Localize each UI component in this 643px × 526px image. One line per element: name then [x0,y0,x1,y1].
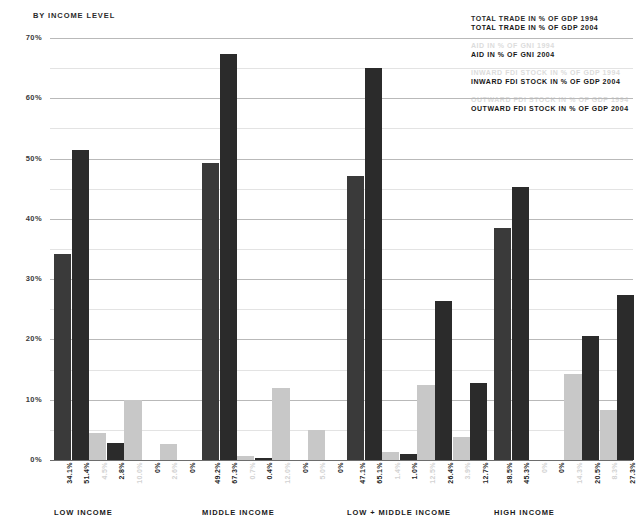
bar[interactable] [494,228,511,460]
bar[interactable] [600,410,617,460]
bar[interactable] [400,454,417,460]
bar[interactable] [255,458,272,460]
gridline-minor-55 [50,128,633,129]
y-axis-tick-60%: 60% [0,93,42,102]
bar-value-label: 12.5% [429,462,436,484]
bar-value-label: 1.4% [394,462,401,480]
chart-plot-area: 0%10%20%30%40%50%60%70% [50,38,633,460]
bar[interactable] [365,68,382,460]
bar[interactable] [160,444,177,460]
bar[interactable] [54,254,71,460]
bar-value-label: 26.4% [447,462,454,484]
y-axis-tick-50%: 50% [0,154,42,163]
bar-value-label: 0.7% [249,462,256,480]
gridline-60 [50,98,633,99]
bar-value-label: 0% [541,462,548,473]
y-axis-tick-0%: 0% [0,455,42,464]
bar[interactable] [124,400,141,460]
gridline-40 [50,219,633,220]
bar-value-label: 12.7% [482,462,489,484]
bar-value-label: 51.4% [83,462,90,484]
bar[interactable] [564,374,581,460]
page-title: BY INCOME LEVEL [33,11,115,20]
bar[interactable] [470,383,487,460]
bar[interactable] [435,301,452,460]
gridline-minor-35 [50,249,633,250]
gridline-0 [50,460,633,461]
bar[interactable] [272,388,289,460]
legend-item-total-trade-1994[interactable]: TOTAL TRADE IN % OF GDP 1994 [471,14,643,23]
bar-value-label: 1.0% [411,462,418,480]
bar-value-label: 14.3% [576,462,583,484]
y-axis-tick-40%: 40% [0,214,42,223]
bar[interactable] [72,150,89,460]
bar-value-label: 4.5% [101,462,108,480]
bar[interactable] [202,163,219,460]
bar-value-label: 38.5% [506,462,513,484]
bar[interactable] [582,336,599,460]
bar[interactable] [417,385,434,460]
bar-value-label: 2.8% [118,462,125,480]
category-label-high-income: HIGH INCOME [494,508,555,517]
bar-value-label: 0% [337,462,344,473]
bar-value-label: 65.1% [376,462,383,484]
bar-value-label: 2.6% [171,462,178,480]
gridline-minor-25 [50,309,633,310]
bar-value-label: 0% [154,462,161,473]
bar-value-label: 67.3% [231,462,238,484]
bar[interactable] [107,443,124,460]
bar-value-label: 0.4% [266,462,273,480]
bar[interactable] [512,187,529,460]
bar[interactable] [453,437,470,461]
bar-value-label: 34.1% [66,462,73,484]
bar-value-label: 10.0% [136,462,143,484]
y-axis-tick-30%: 30% [0,274,42,283]
bar[interactable] [382,452,399,460]
bar[interactable] [347,176,364,460]
bar-value-label: 0% [558,462,565,473]
bar-value-label: 49.2% [214,462,221,484]
bar-value-label: 20.5% [594,462,601,484]
y-axis-tick-70%: 70% [0,33,42,42]
gridline-minor-45 [50,189,633,190]
bar-value-labels: 34.1%51.4%4.5%2.8%10.0%0%2.6%0%49.2%67.3… [50,462,633,506]
category-label-middle-income: MIDDLE INCOME [202,508,275,517]
bar-value-label: 3.9% [464,462,471,480]
gridline-30 [50,279,633,280]
bar-value-label: 5.0% [319,462,326,480]
bar[interactable] [220,54,237,460]
bar-value-label: 45.3% [523,462,530,484]
bar-value-label: 0% [189,462,196,473]
bar[interactable] [237,456,254,460]
bar-value-label: 12.0% [284,462,291,484]
gridline-20 [50,339,633,340]
bar[interactable] [308,430,325,460]
y-axis-tick-20%: 20% [0,334,42,343]
y-axis-tick-10%: 10% [0,395,42,404]
gridline-minor-15 [50,370,633,371]
gridline-50 [50,159,633,160]
bar[interactable] [617,295,634,460]
bar-value-label: 47.1% [359,462,366,484]
bar-value-label: 27.3% [629,462,636,484]
category-label-low-income: LOW INCOME [54,508,113,517]
bar-value-label: 8.3% [611,462,618,480]
gridline-70 [50,38,633,39]
category-label-low-middle-income: LOW + MIDDLE INCOME [347,508,451,517]
bar[interactable] [89,433,106,460]
legend-item-total-trade-2004[interactable]: TOTAL TRADE IN % OF GDP 2004 [471,23,643,32]
gridline-minor-65 [50,68,633,69]
bar-value-label: 0% [302,462,309,473]
